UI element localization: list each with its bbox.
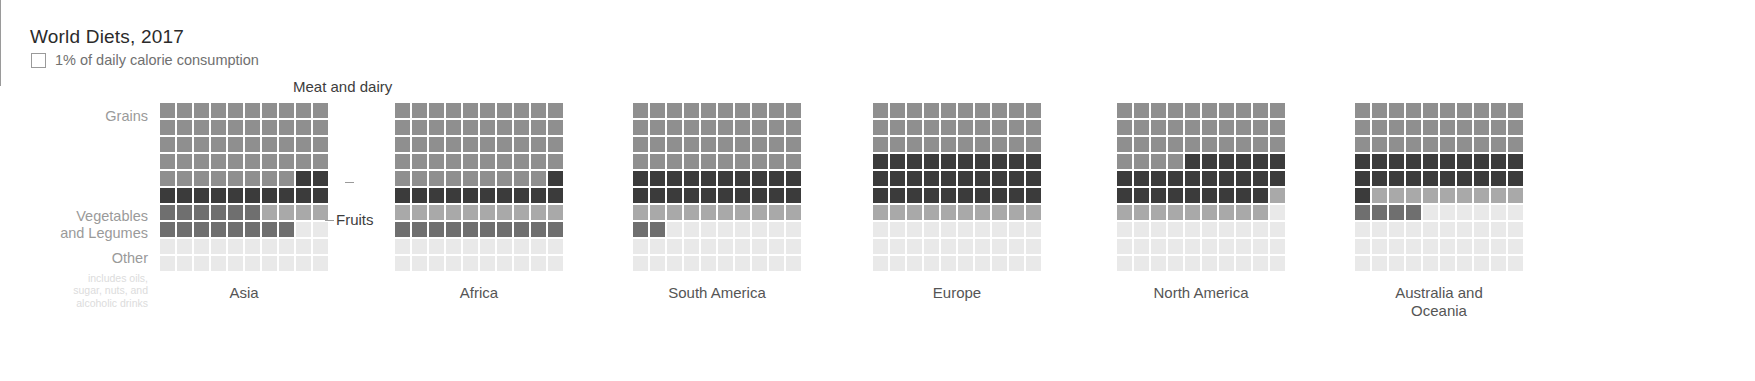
waffle-cell-grains — [395, 154, 410, 169]
waffle-cell-vegetables-and-legumes — [412, 222, 427, 237]
waffle-cell-grains — [1389, 103, 1404, 118]
waffle-cell-other — [395, 256, 410, 271]
waffle-cell-other — [1151, 239, 1166, 254]
waffle-cell-meat-and-dairy — [667, 171, 682, 186]
waffle-cell-grains — [514, 171, 529, 186]
waffle-cell-meat-and-dairy — [718, 188, 733, 203]
waffle-cell-meat-and-dairy — [786, 188, 801, 203]
waffle-cell-grains — [313, 103, 328, 118]
waffle-cell-meat-and-dairy — [1202, 188, 1217, 203]
waffle-cell-grains — [873, 137, 888, 152]
waffle-cell-other — [1406, 222, 1421, 237]
waffle-cell-grains — [1372, 103, 1387, 118]
waffle-cell-grains — [1457, 137, 1472, 152]
waffle-cell-meat-and-dairy — [548, 171, 563, 186]
waffle-cell-meat-and-dairy — [907, 154, 922, 169]
waffle-cell-other — [1202, 239, 1217, 254]
waffle-cell-grains — [480, 120, 495, 135]
waffle-cell-fruits — [769, 205, 784, 220]
waffle-cell-vegetables-and-legumes — [177, 222, 192, 237]
waffle-cell-vegetables-and-legumes — [245, 205, 260, 220]
waffle-cell-other — [701, 222, 716, 237]
waffle-cell-meat-and-dairy — [1253, 188, 1268, 203]
waffle-cell-vegetables-and-legumes — [1372, 205, 1387, 220]
waffle-cell-other — [1440, 205, 1455, 220]
waffle-cell-other — [497, 256, 512, 271]
waffle-cell-other — [446, 239, 461, 254]
waffle-cell-grains — [1270, 137, 1285, 152]
waffle-cell-other — [194, 239, 209, 254]
waffle-cell-meat-and-dairy — [975, 188, 990, 203]
waffle-grid — [1117, 103, 1285, 271]
waffle-cell-fruits — [1491, 188, 1506, 203]
waffle-cell-meat-and-dairy — [735, 188, 750, 203]
waffle-cell-other — [531, 256, 546, 271]
waffle-cell-grains — [446, 103, 461, 118]
waffle-cell-other — [1457, 256, 1472, 271]
waffle-cell-fruits — [701, 205, 716, 220]
waffle-cell-meat-and-dairy — [958, 171, 973, 186]
waffle-cell-meat-and-dairy — [194, 188, 209, 203]
waffle-cell-grains — [497, 103, 512, 118]
waffle-cell-other — [1474, 205, 1489, 220]
waffle-cell-grains — [1508, 137, 1523, 152]
waffle-cell-grains — [1508, 120, 1523, 135]
waffle-cell-grains — [531, 171, 546, 186]
waffle-cell-other — [1117, 256, 1132, 271]
waffle-cell-fruits — [1026, 205, 1041, 220]
waffle-cell-grains — [1474, 137, 1489, 152]
waffle-cell-other — [296, 222, 311, 237]
waffle-cell-other — [480, 239, 495, 254]
waffle-cell-other — [786, 256, 801, 271]
waffle-cell-meat-and-dairy — [1117, 171, 1132, 186]
waffle-cell-grains — [412, 154, 427, 169]
waffle-cell-grains — [1219, 137, 1234, 152]
waffle-cell-grains — [667, 137, 682, 152]
waffle-cell-vegetables-and-legumes — [245, 222, 260, 237]
waffle-cell-fruits — [1406, 188, 1421, 203]
waffle-cell-fruits — [924, 205, 939, 220]
waffle-cell-grains — [211, 137, 226, 152]
waffle-cell-grains — [701, 154, 716, 169]
waffle-cell-grains — [735, 154, 750, 169]
waffle-cell-meat-and-dairy — [958, 154, 973, 169]
waffle-cell-grains — [890, 103, 905, 118]
waffle-chart: Africa — [395, 103, 563, 302]
waffle-cell-grains — [279, 154, 294, 169]
waffle-cell-vegetables-and-legumes — [531, 222, 546, 237]
waffle-cell-grains — [480, 154, 495, 169]
waffle-cell-other — [245, 256, 260, 271]
waffle-cell-grains — [531, 103, 546, 118]
waffle-cell-other — [1236, 256, 1251, 271]
waffle-cell-other — [1270, 239, 1285, 254]
waffle-cell-grains — [958, 103, 973, 118]
waffle-cell-other — [975, 222, 990, 237]
waffle-cell-meat-and-dairy — [1026, 188, 1041, 203]
waffle-cell-meat-and-dairy — [752, 171, 767, 186]
waffle-cell-grains — [514, 120, 529, 135]
waffle-cell-other — [531, 239, 546, 254]
waffle-cell-other — [1253, 239, 1268, 254]
waffle-cell-vegetables-and-legumes — [1406, 205, 1421, 220]
waffle-cell-other — [1423, 239, 1438, 254]
waffle-cell-other — [924, 222, 939, 237]
waffle-cell-meat-and-dairy — [531, 188, 546, 203]
waffle-cell-meat-and-dairy — [1219, 154, 1234, 169]
waffle-cell-meat-and-dairy — [907, 188, 922, 203]
waffle-cell-grains — [1270, 120, 1285, 135]
waffle-cell-meat-and-dairy — [1151, 188, 1166, 203]
waffle-cell-grains — [941, 103, 956, 118]
waffle-cell-meat-and-dairy — [684, 188, 699, 203]
waffle-cell-fruits — [941, 205, 956, 220]
waffle-cell-meat-and-dairy — [1372, 154, 1387, 169]
waffle-cell-grains — [463, 171, 478, 186]
waffle-cell-meat-and-dairy — [992, 154, 1007, 169]
waffle-cell-grains — [412, 120, 427, 135]
waffle-cell-other — [194, 256, 209, 271]
waffle-cell-fruits — [684, 205, 699, 220]
waffle-cell-other — [769, 256, 784, 271]
waffle-cell-vegetables-and-legumes — [514, 222, 529, 237]
waffle-cell-meat-and-dairy — [1355, 188, 1370, 203]
row-label-other: Other — [112, 250, 148, 267]
waffle-cell-other — [718, 239, 733, 254]
